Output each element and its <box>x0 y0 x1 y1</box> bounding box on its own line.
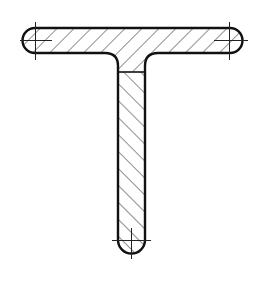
drawing-canvas: T-section cross-section drawing <box>0 0 264 285</box>
